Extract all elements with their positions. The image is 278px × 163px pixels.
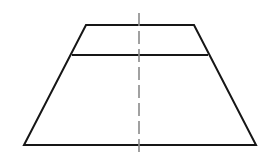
trapezoid-diagram-svg — [0, 0, 278, 163]
figure-canvas — [0, 0, 278, 163]
trapezoid-outline — [24, 25, 256, 145]
